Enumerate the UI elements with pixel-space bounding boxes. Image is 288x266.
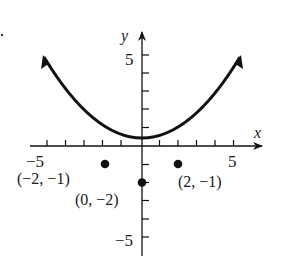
y-tick-label-neg5: −5 (115, 231, 133, 250)
stray-mark (1, 34, 3, 36)
x-tick-label-neg5: −5 (26, 152, 44, 171)
x-axis-label: x (253, 124, 261, 141)
chart-canvas: y x 5 −5 −5 5 (−2, −1) (0, −2) (2, −1) (0, 0, 288, 266)
point-neg2-neg1 (101, 160, 110, 169)
point-label-right: (2, −1) (178, 173, 222, 191)
point-2-neg1 (174, 160, 183, 169)
point-label-vertex: (0, −2) (75, 191, 119, 209)
y-tick-label-5: 5 (125, 50, 134, 69)
x-ticks (47, 140, 234, 146)
y-axis-label: y (119, 27, 129, 45)
point-label-left: (−2, −1) (17, 170, 70, 188)
point-vertex (138, 178, 147, 187)
x-tick-label-5: 5 (228, 152, 237, 171)
